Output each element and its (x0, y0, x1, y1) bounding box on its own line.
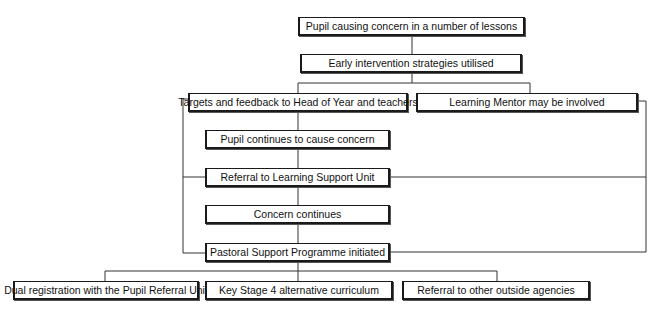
node-referral-outside-agencies: Referral to other outside agencies (402, 281, 590, 300)
node-label: Pupil causing concern in a number of les… (306, 21, 517, 32)
left-bracket (183, 99, 205, 253)
node-dual-registration: Dual registration with the Pupil Referra… (13, 281, 199, 300)
node-referral-lsu: Referral to Learning Support Unit (205, 168, 390, 187)
node-pastoral-support: Pastoral Support Programme initiated (205, 243, 390, 262)
node-early-intervention: Early intervention strategies utilised (300, 54, 522, 73)
node-learning-mentor: Learning Mentor may be involved (416, 93, 638, 112)
node-ks4-curriculum: Key Stage 4 alternative curriculum (205, 281, 393, 300)
connector-lines (0, 0, 660, 323)
node-label: Targets and feedback to Head of Year and… (178, 97, 417, 108)
flowchart-canvas: Pupil causing concern in a number of les… (0, 0, 660, 323)
node-label: Key Stage 4 alternative curriculum (219, 285, 379, 296)
node-label: Learning Mentor may be involved (449, 97, 604, 108)
node-pupil-causing-concern: Pupil causing concern in a number of les… (298, 17, 525, 36)
node-label: Referral to Learning Support Unit (220, 172, 374, 183)
node-label: Pupil continues to cause concern (220, 134, 374, 145)
node-concern-continues: Concern continues (205, 205, 390, 224)
node-pupil-continues: Pupil continues to cause concern (205, 130, 390, 149)
node-label: Referral to other outside agencies (417, 285, 575, 296)
node-targets-feedback: Targets and feedback to Head of Year and… (188, 93, 408, 112)
node-label: Pastoral Support Programme initiated (210, 247, 385, 258)
node-label: Early intervention strategies utilised (328, 58, 493, 69)
node-label: Dual registration with the Pupil Referra… (4, 285, 208, 296)
node-label: Concern continues (254, 209, 342, 220)
